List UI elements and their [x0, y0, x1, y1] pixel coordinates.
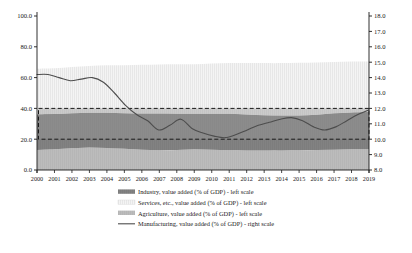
legend-swatch	[118, 211, 135, 215]
legend-item-label: Services, etc., value added (% of GDP) -…	[138, 199, 267, 207]
left-axis-tick-label: 60.0	[20, 74, 32, 81]
x-axis-tick-label: 2000	[31, 175, 43, 182]
legend-item-label: Manufacturing, value added (% of GDP) - …	[138, 220, 274, 228]
x-axis-tick-label: 2005	[118, 175, 130, 182]
right-axis-tick-label: 16.0	[374, 43, 386, 50]
left-axis-tick-label: 40.0	[20, 105, 32, 112]
right-axis-tick-label: 10.0	[374, 136, 386, 143]
chart-container: 0.020.040.060.080.0100.08.09.010.011.012…	[0, 0, 412, 253]
x-axis-tick-label: 2010	[206, 175, 218, 182]
x-axis-tick-label: 2009	[188, 175, 200, 182]
x-axis-tick-label: 2004	[101, 175, 113, 182]
x-axis-tick-label: 2013	[258, 175, 270, 182]
x-axis-tick-label: 2014	[275, 175, 287, 182]
right-axis-tick-label: 8.0	[374, 166, 383, 173]
legend-swatch	[118, 189, 135, 193]
legend-item-label: Industry, value added (% of GDP) - left …	[138, 188, 254, 196]
legend-item-label: Agriculture, value added (% of GDP) - le…	[138, 210, 262, 218]
x-axis-tick-label: 2019	[363, 175, 375, 182]
right-axis-ticks: 8.09.010.011.012.013.014.015.016.017.018…	[369, 12, 386, 173]
right-axis-tick-label: 13.0	[374, 89, 386, 96]
chart-plot-area: 0.020.040.060.080.0100.08.09.010.011.012…	[0, 0, 412, 253]
right-axis-tick-label: 17.0	[374, 28, 386, 35]
legend-swatch	[118, 200, 135, 204]
stacked-area-chart: 0.020.040.060.080.0100.08.09.010.011.012…	[0, 0, 412, 253]
chart-legend: Industry, value added (% of GDP) - left …	[118, 188, 274, 228]
x-axis-tick-label: 2016	[310, 175, 322, 182]
x-axis-tick-label: 2011	[223, 175, 235, 182]
right-axis-tick-label: 18.0	[374, 12, 386, 19]
x-axis-ticks: 2000200120022003200420052006200720082009…	[31, 170, 375, 182]
left-axis-ticks: 0.020.040.060.080.0100.0	[17, 12, 37, 173]
area-series	[37, 61, 369, 115]
x-axis-tick-label: 2006	[136, 175, 148, 182]
x-axis-tick-label: 2018	[345, 175, 357, 182]
x-axis-tick-label: 2012	[240, 175, 252, 182]
area-series	[37, 148, 369, 170]
right-axis-tick-label: 11.0	[374, 120, 386, 127]
left-axis-tick-label: 80.0	[20, 43, 32, 50]
x-axis-tick-label: 2017	[328, 175, 340, 182]
x-axis-tick-label: 2007	[153, 175, 165, 182]
right-axis-tick-label: 9.0	[374, 151, 383, 158]
left-axis-tick-label: 100.0	[17, 12, 33, 19]
right-axis-tick-label: 15.0	[374, 59, 386, 66]
x-axis-tick-label: 2002	[66, 175, 78, 182]
x-axis-tick-label: 2015	[293, 175, 305, 182]
x-axis-tick-label: 2003	[83, 175, 95, 182]
x-axis-tick-label: 2008	[171, 175, 183, 182]
right-axis-tick-label: 12.0	[374, 105, 386, 112]
left-axis-tick-label: 20.0	[20, 136, 32, 143]
x-axis-tick-label: 2001	[48, 175, 60, 182]
highlight-band	[39, 108, 370, 139]
right-axis-tick-label: 14.0	[374, 74, 386, 81]
left-axis-tick-label: 0.0	[24, 166, 33, 173]
